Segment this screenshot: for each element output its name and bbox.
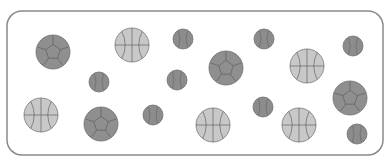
soccer-icon xyxy=(84,107,118,141)
basketball-icon xyxy=(196,108,230,142)
soccer-icon xyxy=(36,35,70,69)
baseball-icon xyxy=(254,29,274,49)
soccer-icon xyxy=(209,51,243,85)
basketball-icon xyxy=(24,98,58,132)
baseball-icon xyxy=(143,105,163,125)
baseball-icon xyxy=(167,70,187,90)
baseball-icon xyxy=(347,124,367,144)
ball-scene xyxy=(0,0,387,158)
baseball-icon xyxy=(89,72,109,92)
baseball-icon xyxy=(253,97,273,117)
soccer-icon xyxy=(333,81,367,115)
baseball-icon xyxy=(173,29,193,49)
rounded-frame xyxy=(7,11,383,155)
basketball-icon xyxy=(115,28,149,62)
basketball-icon xyxy=(282,108,316,142)
basketball-icon xyxy=(290,49,324,83)
baseball-icon xyxy=(343,36,363,56)
